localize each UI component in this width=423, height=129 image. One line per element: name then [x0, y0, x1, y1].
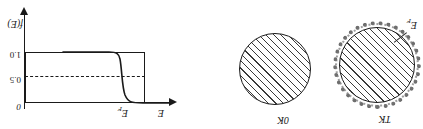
panel-fermi-surfaces: TK EF 0K — [211, 0, 423, 129]
label-zero-kelvin: 0K — [277, 115, 289, 125]
fermi-dirac-curve — [13, 35, 183, 115]
label-fermi-energy: EF — [118, 105, 128, 118]
fermi-disc-finite-temperature — [339, 27, 415, 103]
y-tick-label-one: 1.0 — [10, 50, 21, 59]
y-tick-label-0: 0 — [17, 102, 22, 111]
label-fermi-energy-text: E — [122, 108, 128, 119]
label-fermi-level: EF — [407, 17, 417, 30]
y-axis-arrowhead — [20, 7, 28, 15]
figure-root: TK EF 0K 0 0.5 1.0 f(E) E EF — [0, 0, 423, 129]
label-fermi-level-subscript: F — [407, 17, 411, 25]
y-tick-label-half: 0.5 — [10, 75, 21, 84]
x-axis-title: E — [158, 108, 164, 118]
fermi-disc-zero-temperature — [239, 33, 311, 105]
label-hot-temperature: TK — [379, 114, 391, 124]
label-fermi-energy-subscript: F — [118, 105, 122, 113]
label-fermi-level-text: E — [411, 20, 417, 31]
y-axis-title: f(E) — [7, 19, 23, 29]
